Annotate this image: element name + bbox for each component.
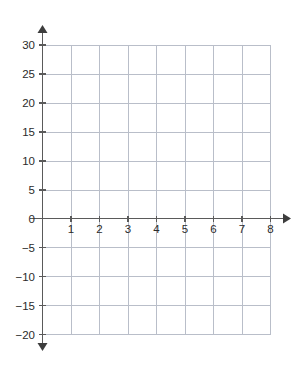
x-tick-label-7: 7 <box>239 223 245 235</box>
y-tick-label-5: 5 <box>29 184 35 196</box>
y-tick-label-15: 15 <box>22 126 35 138</box>
y-tick-label-neg10: −10 <box>15 271 35 283</box>
x-tick-label-5: 5 <box>182 223 188 235</box>
x-tick-label-3: 3 <box>125 223 131 235</box>
canvas-background <box>0 0 297 376</box>
x-tick-label-4: 4 <box>153 223 160 235</box>
coordinate-plane: 30 25 20 15 10 5 0 −5 −10 −15 −20 1 2 3 … <box>0 0 297 376</box>
y-tick-label-neg20: −20 <box>15 329 35 341</box>
x-tick-label-1: 1 <box>68 223 74 235</box>
y-tick-label-0: 0 <box>29 213 35 225</box>
y-tick-label-20: 20 <box>22 97 35 109</box>
x-tick-label-6: 6 <box>210 223 216 235</box>
y-tick-label-neg5: −5 <box>22 242 35 254</box>
y-tick-label-25: 25 <box>22 68 35 80</box>
x-tick-label-2: 2 <box>96 223 102 235</box>
y-tick-label-30: 30 <box>22 39 35 51</box>
y-tick-label-neg15: −15 <box>15 300 35 312</box>
x-tick-label-8: 8 <box>267 223 273 235</box>
y-tick-label-10: 10 <box>22 155 35 167</box>
coordinate-plane-svg: 30 25 20 15 10 5 0 −5 −10 −15 −20 1 2 3 … <box>0 0 297 376</box>
